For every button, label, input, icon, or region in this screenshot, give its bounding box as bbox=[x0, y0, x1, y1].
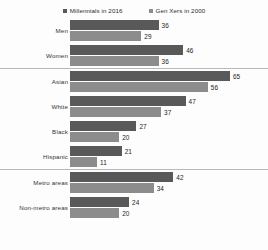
grouped-bar-chart: Millennials in 2016 Gen Xers in 2000 Men… bbox=[0, 0, 268, 250]
bar-value-label: 24 bbox=[132, 199, 139, 206]
bar-gen-xers bbox=[70, 56, 159, 66]
bar-value-label: 37 bbox=[164, 109, 171, 116]
bar-value-label: 42 bbox=[176, 174, 183, 181]
bar-millennials bbox=[70, 121, 136, 131]
bar-row: 47 bbox=[70, 96, 268, 106]
bar-gen-xers bbox=[70, 82, 208, 92]
bar-millennials bbox=[70, 45, 183, 55]
bar-row: 37 bbox=[70, 107, 268, 117]
legend-entry-millennials: Millennials in 2016 bbox=[63, 7, 123, 14]
legend-label-gen-xers: Gen Xers in 2000 bbox=[156, 7, 206, 14]
bar-millennials bbox=[70, 197, 129, 207]
bar-millennials bbox=[70, 172, 173, 182]
bar-row: 34 bbox=[70, 183, 268, 193]
bar-group: Metro areas4234 bbox=[0, 170, 268, 195]
bar-row: 36 bbox=[70, 20, 268, 30]
bar-pair: 2720 bbox=[70, 121, 268, 142]
bar-value-label: 36 bbox=[162, 58, 169, 65]
bar-pair: 4737 bbox=[70, 96, 268, 117]
bar-group: Women4636 bbox=[0, 43, 268, 68]
bar-pair: 2111 bbox=[70, 146, 268, 167]
section-geography: Metro areas4234Non-metro areas2420 bbox=[0, 169, 268, 220]
bar-row: 20 bbox=[70, 132, 268, 142]
bar-value-label: 46 bbox=[186, 47, 193, 54]
bar-value-label: 65 bbox=[233, 73, 240, 80]
square-marker-icon bbox=[149, 9, 153, 13]
bar-row: 56 bbox=[70, 82, 268, 92]
bar-pair: 6556 bbox=[70, 71, 268, 92]
bar-row: 27 bbox=[70, 121, 268, 131]
bar-value-label: 29 bbox=[144, 33, 151, 40]
bar-gen-xers bbox=[70, 107, 161, 117]
bar-millennials bbox=[70, 71, 230, 81]
square-marker-icon bbox=[63, 9, 67, 13]
bar-group: Asian6556 bbox=[0, 69, 268, 94]
bar-value-label: 56 bbox=[211, 84, 218, 91]
bar-row: 46 bbox=[70, 45, 268, 55]
bar-pair: 4636 bbox=[70, 45, 268, 66]
bar-group: White4737 bbox=[0, 94, 268, 119]
bar-row: 65 bbox=[70, 71, 268, 81]
bar-millennials bbox=[70, 146, 122, 156]
bar-value-label: 47 bbox=[189, 98, 196, 105]
category-label: Non-metro areas bbox=[0, 204, 70, 211]
category-label: Metro areas bbox=[0, 179, 70, 186]
category-label: Hispanic bbox=[0, 153, 70, 160]
bar-value-label: 36 bbox=[162, 22, 169, 29]
bar-value-label: 20 bbox=[122, 134, 129, 141]
plot-area: Men3629Women4636 Asian6556White4737Black… bbox=[0, 18, 268, 220]
bar-value-label: 21 bbox=[125, 148, 132, 155]
bar-group: Men3629 bbox=[0, 18, 268, 43]
bar-row: 42 bbox=[70, 172, 268, 182]
section-race-ethnicity: Asian6556White4737Black2720Hispanic2111 bbox=[0, 68, 268, 169]
bar-pair: 3629 bbox=[70, 20, 268, 41]
bar-gen-xers bbox=[70, 208, 119, 218]
bar-gen-xers bbox=[70, 183, 154, 193]
bar-value-label: 20 bbox=[122, 210, 129, 217]
bar-row: 24 bbox=[70, 197, 268, 207]
bar-group: Non-metro areas2420 bbox=[0, 195, 268, 220]
chart-legend: Millennials in 2016 Gen Xers in 2000 bbox=[0, 0, 268, 18]
category-label: Women bbox=[0, 52, 70, 59]
category-label: Men bbox=[0, 27, 70, 34]
bar-row: 36 bbox=[70, 56, 268, 66]
legend-label-millennials: Millennials in 2016 bbox=[70, 7, 123, 14]
category-label: Asian bbox=[0, 78, 70, 85]
bar-gen-xers bbox=[70, 157, 97, 167]
bar-millennials bbox=[70, 20, 159, 30]
bar-value-label: 34 bbox=[157, 185, 164, 192]
bar-row: 11 bbox=[70, 157, 268, 167]
legend-entry-gen-xers: Gen Xers in 2000 bbox=[149, 7, 206, 14]
bar-row: 20 bbox=[70, 208, 268, 218]
category-label: White bbox=[0, 103, 70, 110]
bar-pair: 2420 bbox=[70, 197, 268, 218]
bar-gen-xers bbox=[70, 31, 141, 41]
bar-gen-xers bbox=[70, 132, 119, 142]
bar-row: 29 bbox=[70, 31, 268, 41]
category-label: Black bbox=[0, 128, 70, 135]
bar-value-label: 11 bbox=[100, 159, 107, 166]
bar-row: 21 bbox=[70, 146, 268, 156]
bar-group: Black2720 bbox=[0, 119, 268, 144]
bar-pair: 4234 bbox=[70, 172, 268, 193]
bar-value-label: 27 bbox=[139, 123, 146, 130]
bar-group: Hispanic2111 bbox=[0, 144, 268, 169]
bar-millennials bbox=[70, 96, 186, 106]
section-gender: Men3629Women4636 bbox=[0, 18, 268, 68]
